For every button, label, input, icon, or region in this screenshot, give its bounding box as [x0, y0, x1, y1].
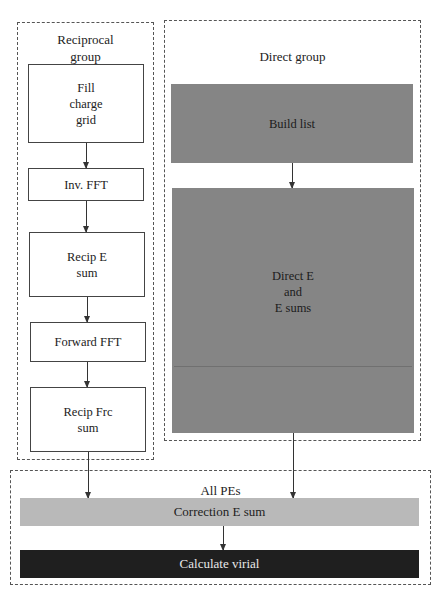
- correction-e-sum-label: Correction E sum: [174, 504, 266, 520]
- arrow-invfft-to-recipe: [86, 201, 87, 232]
- direct-box-seam: [174, 366, 412, 367]
- reciprocal-group-label: Reciprocal group: [18, 31, 153, 65]
- recip-e-sum-label: Recip E sum: [67, 249, 107, 281]
- arrow-buildlist-to-direct: [292, 163, 293, 188]
- direct-e-and-e-sums-box: Direct E and E sums: [172, 188, 414, 433]
- build-list-box: Build list: [171, 84, 413, 163]
- arrow-recipe-to-forwardfft: [87, 297, 88, 322]
- forward-fft-label: Forward FFT: [54, 334, 121, 350]
- fill-charge-grid-box: Fill charge grid: [28, 64, 144, 143]
- arrow-forwardfft-to-recipfrc: [87, 362, 88, 387]
- correction-e-sum-box: Correction E sum: [20, 498, 419, 526]
- direct-group-label: Direct group: [165, 48, 420, 65]
- inv-fft-label: Inv. FFT: [64, 177, 108, 193]
- inv-fft-box: Inv. FFT: [28, 168, 144, 201]
- direct-e-and-e-sums-label: Direct E and E sums: [272, 268, 314, 316]
- recip-frc-sum-box: Recip Frc sum: [30, 387, 146, 452]
- forward-fft-box: Forward FFT: [30, 322, 146, 362]
- calculate-virial-box: Calculate virial: [20, 550, 419, 578]
- arrow-fill-to-invfft: [86, 143, 87, 168]
- all-pes-label: All PEs: [11, 482, 430, 499]
- arrow-correction-to-virial: [223, 526, 224, 550]
- build-list-label: Build list: [269, 116, 315, 132]
- recip-e-sum-box: Recip E sum: [29, 232, 145, 297]
- fill-charge-grid-label: Fill charge grid: [69, 80, 102, 128]
- calculate-virial-label: Calculate virial: [180, 556, 260, 572]
- recip-frc-sum-label: Recip Frc sum: [64, 404, 113, 436]
